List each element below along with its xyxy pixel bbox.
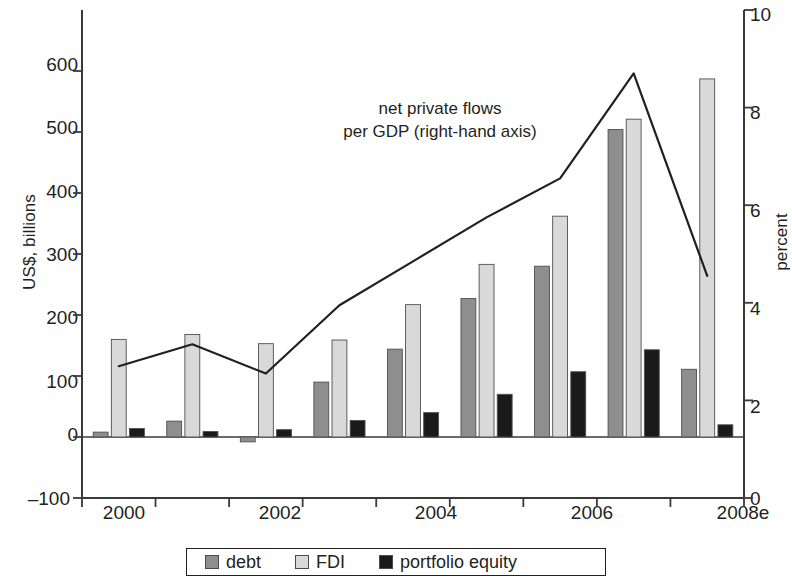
bar-FDI-2004 — [406, 305, 421, 437]
bar-portfolio-equity-2005 — [497, 394, 512, 437]
bar-portfolio-equity-2002 — [277, 430, 292, 437]
bar-debt-2006 — [535, 266, 550, 437]
bar-portfolio-equity-2001 — [203, 432, 218, 437]
legend-item-debt[interactable]: debt — [205, 552, 261, 573]
bar-portfolio-equity-2003 — [350, 421, 365, 437]
plot-area — [0, 0, 792, 580]
bar-portfolio-equity-2006 — [571, 372, 586, 437]
legend-item-portfolio-equity[interactable]: portfolio equity — [379, 552, 517, 573]
bar-FDI-2000 — [111, 339, 126, 437]
legend-label-debt: debt — [226, 552, 261, 573]
bar-debt-2003 — [314, 382, 329, 437]
bar-FDI-2003 — [332, 340, 347, 437]
bar-FDI-2007 — [626, 119, 641, 437]
bar-debt-2001 — [167, 421, 182, 437]
chart-container: US$, billions percent 600 500 400 300 20… — [0, 0, 792, 580]
bar-portfolio-equity-2007 — [644, 350, 659, 437]
bar-debt-2000 — [93, 432, 108, 437]
legend-item-fdi[interactable]: FDI — [295, 552, 345, 573]
bar-FDI-2005 — [479, 264, 494, 437]
bar-FDI-2006 — [553, 216, 568, 437]
bar-FDI-2002 — [258, 344, 273, 437]
bar-debt-2008e — [682, 369, 697, 437]
legend-swatch-portfolio-equity — [379, 555, 393, 569]
bar-debt-2005 — [461, 299, 476, 437]
bar-FDI-2001 — [185, 335, 200, 437]
bar-portfolio-equity-2008e — [718, 425, 733, 437]
bar-debt-2004 — [387, 349, 402, 437]
legend-label-fdi: FDI — [316, 552, 345, 573]
chart-legend: debt FDI portfolio equity — [186, 548, 606, 576]
bar-portfolio-equity-2000 — [129, 428, 144, 437]
bar-portfolio-equity-2004 — [424, 413, 439, 437]
bar-debt-2002 — [240, 437, 255, 442]
legend-label-portfolio-equity: portfolio equity — [400, 552, 517, 573]
legend-swatch-debt — [205, 555, 219, 569]
bar-debt-2007 — [608, 130, 623, 437]
legend-swatch-fdi — [295, 555, 309, 569]
bar-FDI-2008e — [700, 79, 715, 437]
